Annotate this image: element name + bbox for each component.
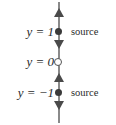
- arrow-between-y0-ym1-icon: [54, 73, 64, 82]
- classification-label-ym1-text: source: [71, 87, 98, 98]
- equilibrium-marker-y0: [54, 58, 62, 66]
- equilibrium-label-y0: y = 0: [26, 55, 54, 68]
- classification-label-y1: source: [71, 27, 98, 38]
- equilibrium-label-y1: y = 1: [26, 25, 54, 38]
- classification-label-y1-text: source: [71, 26, 98, 37]
- equilibrium-label-y1-text: y = 1: [26, 24, 54, 39]
- arrow-between-y1-y0-icon: [54, 40, 64, 49]
- arrow-above-y1-icon: [54, 8, 64, 17]
- phase-line-figure: y = 1 y = 0 y = −1 source source: [0, 0, 116, 125]
- equilibrium-label-y0-text: y = 0: [26, 54, 54, 69]
- equilibrium-label-ym1-text: y = −1: [18, 85, 54, 100]
- equilibrium-marker-ym1: [55, 89, 62, 96]
- equilibrium-label-ym1: y = −1: [18, 86, 54, 99]
- classification-label-ym1: source: [71, 88, 98, 99]
- arrow-below-ym1-icon: [54, 101, 64, 110]
- equilibrium-marker-y1: [55, 28, 62, 35]
